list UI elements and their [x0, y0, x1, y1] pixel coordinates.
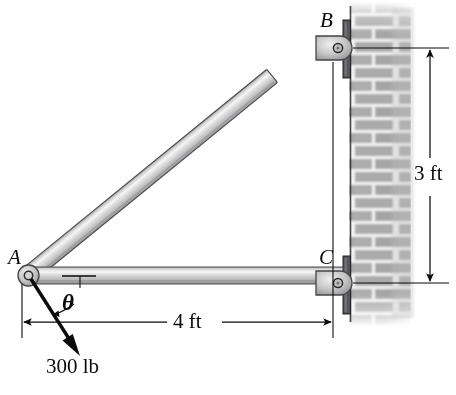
brick-wall	[349, 2, 414, 326]
dimension-label-3ft: 3 ft	[414, 163, 443, 184]
pin-joint-b	[316, 36, 352, 60]
pin-joint-a	[18, 265, 39, 286]
dimension-label-4ft: 4 ft	[173, 311, 202, 332]
joint-label-a: A	[8, 247, 21, 268]
statics-diagram-figure: A B C 4 ft 3 ft 300 lb θ	[0, 0, 456, 395]
joint-label-b: B	[320, 10, 333, 31]
force-label-300lb: 300 lb	[46, 356, 99, 377]
pin-joint-c	[316, 271, 352, 295]
member-ab	[18, 69, 278, 285]
joint-label-c: C	[319, 247, 333, 268]
angle-label-theta: θ	[62, 291, 74, 314]
diagram-canvas	[0, 0, 456, 395]
